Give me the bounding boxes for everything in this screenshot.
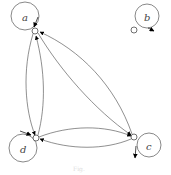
vertex-b bbox=[131, 27, 137, 33]
vertex-a bbox=[32, 28, 38, 34]
edge-c-a bbox=[40, 32, 132, 134]
vertex-d bbox=[33, 135, 39, 141]
node-label-a: a bbox=[22, 12, 28, 23]
vertex-c bbox=[131, 134, 137, 140]
node-label-b: b bbox=[144, 12, 150, 23]
node-c: c bbox=[131, 133, 161, 158]
node-d: d bbox=[9, 131, 39, 162]
node-b: b bbox=[131, 4, 159, 33]
edge-c-d bbox=[40, 139, 131, 147]
node-a: a bbox=[11, 2, 39, 34]
graph-diagram: a b d c Fig. bbox=[0, 0, 171, 175]
edge-d-c bbox=[39, 128, 131, 137]
figure-caption: Fig. bbox=[73, 165, 85, 173]
node-label-c: c bbox=[146, 141, 152, 152]
edge-a-c bbox=[38, 33, 131, 135]
edge-a-d bbox=[26, 34, 35, 135]
edge-d-a bbox=[36, 36, 43, 135]
node-label-d: d bbox=[20, 144, 26, 155]
